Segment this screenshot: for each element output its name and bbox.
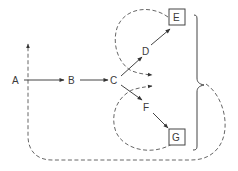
node-e-label: E	[173, 12, 180, 23]
node-f-label: F	[143, 102, 149, 113]
edge-d-e	[151, 29, 170, 45]
lower-feedback-loop	[114, 86, 172, 150]
edge-c-d	[121, 57, 142, 76]
node-g-label: G	[172, 132, 180, 143]
right-brace	[193, 15, 204, 150]
node-b-label: B	[68, 75, 75, 86]
upper-feedback-loop	[115, 9, 168, 75]
edge-f-g	[153, 113, 168, 128]
node-d-label: D	[142, 46, 149, 57]
edge-c-f	[121, 85, 142, 100]
outer-feedback-loop	[28, 44, 225, 160]
node-c-label: C	[110, 75, 117, 86]
flow-diagram: A B C D E F G	[0, 0, 238, 171]
node-a-label: A	[12, 75, 19, 86]
